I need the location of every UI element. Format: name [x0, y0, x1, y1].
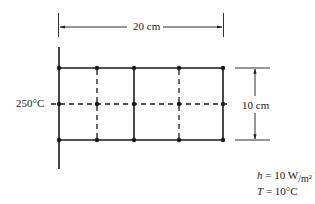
- height-label: 10 cm: [241, 98, 270, 113]
- h-value: = 10 W: [265, 169, 298, 181]
- h-unit-sub: /m²: [298, 173, 312, 184]
- grid-dashed-lines: [51, 70, 229, 140]
- T-symbol: T: [257, 185, 263, 197]
- ambient-temperature: T = 10°C: [257, 186, 298, 197]
- wall-temperature-label: 250°C: [16, 98, 44, 109]
- T-value: = 10°C: [266, 185, 298, 197]
- h-symbol: h: [257, 169, 263, 181]
- width-label: 20 cm: [131, 21, 162, 32]
- h-unit-tail: °C: [312, 169, 315, 181]
- convection-coefficient: h = 10 W/m² °C: [257, 170, 315, 181]
